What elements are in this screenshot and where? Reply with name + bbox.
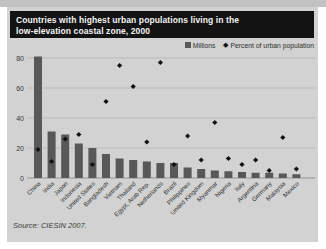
x-axis-label: Nigeria [213, 179, 232, 198]
bar [252, 173, 260, 178]
bar [129, 160, 137, 178]
bar [48, 132, 56, 179]
percent-diamond [76, 132, 81, 137]
y-tick-label: 80 [16, 55, 24, 62]
percent-diamond [267, 168, 272, 173]
bar [34, 57, 42, 179]
bar [238, 172, 246, 178]
percent-diamond [144, 139, 149, 144]
percent-diamond [117, 63, 122, 68]
percent-diamond [103, 99, 108, 104]
chart-plot-area: 020406080ChinaIndiaJapanIndonesiaUnited … [7, 7, 318, 242]
bar [197, 169, 205, 178]
bar [75, 144, 83, 179]
bar [184, 168, 192, 179]
bar [211, 171, 219, 179]
bar [279, 174, 287, 179]
y-tick-label: 40 [16, 115, 24, 122]
source-note: Source: CIESIN 2007. [13, 221, 87, 230]
y-tick-label: 60 [16, 85, 24, 92]
percent-diamond [212, 120, 217, 125]
bar [265, 173, 273, 178]
x-axis-label: China [25, 179, 42, 196]
bar [292, 174, 300, 178]
y-tick-label: 20 [16, 145, 24, 152]
y-tick-label: 0 [20, 175, 24, 182]
percent-diamond [226, 156, 231, 161]
bar [116, 159, 124, 179]
bar [224, 171, 232, 178]
bar [143, 162, 151, 179]
scan-artifact-strip [0, 0, 326, 7]
bar [156, 163, 164, 178]
combo-chart: 020406080ChinaIndiaJapanIndonesiaUnited … [7, 7, 318, 242]
figure-panel: Countries with highest urban populations… [7, 7, 318, 242]
bar [102, 154, 110, 178]
percent-diamond [158, 60, 163, 65]
percent-diamond [294, 166, 299, 171]
percent-diamond [253, 157, 258, 162]
percent-diamond [199, 157, 204, 162]
percent-diamond [280, 135, 285, 140]
percent-diamond [239, 162, 244, 167]
x-axis-label: Mexico [281, 179, 300, 198]
percent-diamond [185, 133, 190, 138]
